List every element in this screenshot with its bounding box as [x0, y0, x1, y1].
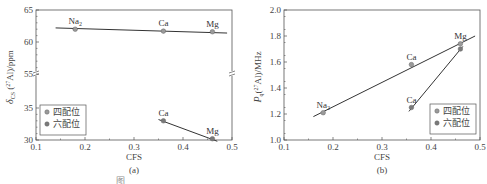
x-tick-label: 0.3: [376, 142, 388, 152]
legend: 四配位六配位: [40, 105, 86, 135]
data-point: [409, 62, 414, 67]
data-point: [321, 110, 326, 115]
panel-caption: (b): [377, 165, 388, 175]
point-label: Na2: [68, 16, 82, 27]
y-tick-label: 35: [24, 103, 34, 113]
fit-line: [409, 46, 463, 111]
point-label: Mg: [454, 31, 467, 41]
data-point: [409, 105, 414, 110]
point-label: Na2: [316, 100, 330, 111]
legend-marker: [435, 121, 439, 125]
y-tick-label: 1.0: [270, 135, 282, 145]
x-tick-label: 0.4: [425, 142, 437, 152]
x-tick-label: 0.5: [226, 142, 238, 152]
fit-line: [56, 28, 228, 33]
panel-b: 0.10.20.30.40.52.01.81.61.41.21.0CFSPq(2…: [252, 5, 486, 175]
data-point: [73, 27, 78, 32]
x-tick-label: 0.4: [177, 142, 189, 152]
point-label: Ca: [406, 52, 416, 62]
point-label: Ca: [158, 18, 168, 28]
figure: 0.10.20.30.40.56560553530CFSδCS (27Al)/p…: [0, 0, 487, 184]
y-tick-label: 30: [24, 135, 34, 145]
y-tick-label: 2.0: [270, 5, 282, 15]
legend-label: 六配位: [443, 117, 470, 128]
figure-caption-fragment: 图: [116, 176, 125, 184]
y-axis-label: δCS (27Al)/ppm: [4, 50, 16, 104]
point-label: Mg: [206, 126, 219, 136]
y-tick-label: 1.4: [270, 83, 282, 93]
x-axis-label: CFS: [374, 152, 390, 162]
y-axis-label: Pq(27Al)/MHz: [252, 51, 264, 103]
y-tick-label: 65: [24, 5, 34, 15]
data-point: [458, 42, 463, 47]
y-tick-label: 1.2: [270, 109, 281, 119]
data-point: [161, 29, 166, 34]
data-point: [161, 119, 166, 124]
x-tick-label: 0.5: [474, 142, 486, 152]
data-point: [210, 136, 215, 141]
y-tick-label: 60: [24, 37, 34, 47]
panel-caption: (a): [129, 165, 139, 175]
x-tick-label: 0.2: [79, 142, 90, 152]
legend: 四配位六配位: [430, 104, 476, 134]
data-point: [210, 29, 215, 34]
y-tick-label: 1.8: [270, 31, 282, 41]
point-label: Ca: [406, 95, 416, 105]
x-tick-label: 0.2: [327, 142, 338, 152]
point-label: Ca: [158, 108, 168, 118]
legend-marker: [45, 122, 49, 126]
legend-label: 四配位: [53, 106, 80, 117]
point-label: Mg: [206, 19, 219, 29]
legend-marker: [45, 110, 49, 114]
legend-marker: [435, 109, 439, 113]
legend-label: 四配位: [443, 105, 470, 116]
y-tick-label: 1.6: [270, 57, 282, 67]
x-tick-label: 0.3: [128, 142, 140, 152]
legend-label: 六配位: [53, 118, 80, 129]
panel-a: 0.10.20.30.40.56560553530CFSδCS (27Al)/p…: [4, 5, 238, 175]
y-tick-label: 55: [24, 69, 34, 79]
x-axis-label: CFS: [126, 152, 142, 162]
data-point: [458, 47, 463, 52]
